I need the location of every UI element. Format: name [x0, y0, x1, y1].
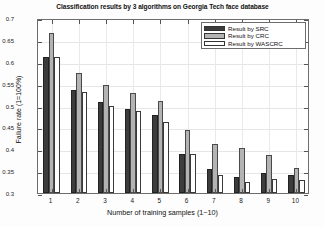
y-tick-mark [38, 173, 42, 174]
bar-wascrc-5 [163, 122, 168, 193]
legend-label-crc: Result by CRC [228, 32, 269, 40]
bar-wascrc-9 [272, 179, 277, 193]
x-tick-label: 4 [130, 197, 134, 204]
bar-wascrc-6 [190, 154, 195, 193]
legend-label-wascrc: Result by WASCRC [228, 40, 283, 48]
x-tick-mark [160, 189, 161, 193]
y-tick-mark [38, 151, 42, 152]
x-tick-mark [188, 20, 189, 24]
x-tick-mark [79, 189, 80, 193]
bar-wascrc-2 [82, 92, 87, 194]
y-tick-mark [38, 64, 42, 65]
y-tick-label: 0.65 [2, 38, 14, 44]
bar-wascrc-7 [218, 175, 223, 193]
y-tick-mark [304, 20, 308, 21]
y-tick-label: 0.4 [6, 147, 14, 153]
x-tick-mark [133, 20, 134, 24]
y-tick-mark [38, 20, 42, 21]
y-tick-label: 0.55 [2, 82, 14, 88]
y-tick-mark [304, 173, 308, 174]
y-tick-mark [38, 108, 42, 109]
legend-item: Result by WASCRC [204, 40, 303, 48]
x-tick-mark [133, 189, 134, 193]
x-tick-mark [106, 189, 107, 193]
x-tick-label: 7 [212, 197, 216, 204]
x-tick-mark [215, 189, 216, 193]
x-tick-label: 2 [76, 197, 80, 204]
chart-title: Classification results by 3 algorithms o… [0, 3, 325, 10]
legend-swatch-wascrc [204, 41, 225, 47]
legend-item: Result by CRC [204, 32, 303, 40]
y-tick-mark [38, 195, 42, 196]
y-tick-mark [304, 64, 308, 65]
legend-swatch-src [204, 26, 225, 32]
x-tick-label: 5 [158, 197, 162, 204]
y-tick-mark [304, 151, 308, 152]
y-tick-label: 0.3 [6, 191, 14, 197]
y-tick-mark [38, 129, 42, 130]
y-axis-title: Failure rate (1=100%) [15, 45, 22, 175]
y-tick-mark [38, 42, 42, 43]
y-tick-mark [304, 129, 308, 130]
x-tick-mark [52, 189, 53, 193]
x-axis-title: Number of training samples (1−10) [0, 208, 325, 217]
bar-wascrc-1 [54, 57, 59, 193]
x-tick-label: 1 [49, 197, 53, 204]
bar-wascrc-4 [136, 111, 141, 193]
figure-canvas: Classification results by 3 algorithms o… [0, 0, 325, 227]
legend: Result by SRC Result by CRC Result by WA… [201, 22, 306, 49]
x-tick-label: 3 [103, 197, 107, 204]
y-tick-mark [38, 86, 42, 87]
y-tick-label: 0.5 [6, 104, 14, 110]
y-tick-mark [304, 108, 308, 109]
x-tick-mark [242, 189, 243, 193]
x-tick-label: 6 [185, 197, 189, 204]
y-tick-mark [304, 195, 308, 196]
x-tick-mark [52, 20, 53, 24]
x-tick-mark [106, 20, 107, 24]
x-tick-label: 9 [266, 197, 270, 204]
x-tick-label: 8 [239, 197, 243, 204]
x-tick-mark [79, 20, 80, 24]
x-tick-label: 10 [292, 197, 299, 204]
x-tick-mark [160, 20, 161, 24]
x-tick-mark [188, 189, 189, 193]
bar-wascrc-10 [299, 180, 304, 193]
bar-wascrc-3 [109, 106, 114, 194]
y-tick-label: 0.45 [2, 125, 14, 131]
x-tick-mark [296, 189, 297, 193]
y-tick-label: 0.7 [6, 16, 14, 22]
x-tick-mark [269, 189, 270, 193]
legend-item: Result by SRC [204, 25, 303, 33]
legend-label-src: Result by SRC [228, 25, 269, 33]
bar-wascrc-8 [245, 182, 250, 193]
y-tick-label: 0.35 [2, 169, 14, 175]
y-tick-mark [304, 86, 308, 87]
y-tick-label: 0.6 [6, 60, 14, 66]
legend-swatch-crc [204, 33, 225, 39]
